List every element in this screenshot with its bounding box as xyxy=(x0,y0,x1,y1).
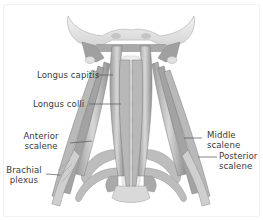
label-anterior-scalene: Anterior scalene xyxy=(19,131,63,151)
label-anterior-scalene-line1: Anterior xyxy=(19,131,63,141)
label-posterior-scalene-line2: scalene xyxy=(219,161,257,171)
label-middle-scalene-line2: scalene xyxy=(207,140,240,150)
label-posterior-scalene: Posterior scalene xyxy=(219,151,257,171)
label-middle-scalene: Middle scalene xyxy=(207,130,240,150)
label-longus-colli: Longus colli xyxy=(33,99,84,109)
label-longus-capitis: Longus capitis xyxy=(37,70,99,80)
label-brachial-plexus: Brachial plexus xyxy=(4,165,44,185)
neck-anatomy-illustration xyxy=(0,0,263,220)
label-middle-scalene-line1: Middle xyxy=(207,130,240,140)
label-anterior-scalene-line2: scalene xyxy=(19,141,63,151)
label-posterior-scalene-line1: Posterior xyxy=(219,151,257,161)
label-brachial-plexus-line1: Brachial xyxy=(4,165,44,175)
label-brachial-plexus-line2: plexus xyxy=(4,175,44,185)
